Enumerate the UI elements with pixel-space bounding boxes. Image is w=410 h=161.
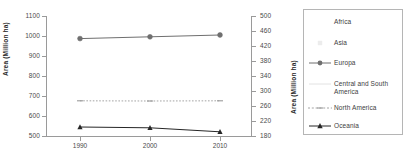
y-tick-label-left: 900 (0, 52, 46, 59)
y-tick-label-right: 380 (252, 57, 300, 64)
legend-marker-icon (304, 16, 334, 28)
series-europa (78, 33, 223, 41)
y-tick-label-left: 500 (0, 132, 46, 139)
legend-marker-icon (304, 120, 334, 132)
series-layer (46, 16, 252, 137)
chart-figure: Area (Million ha) Area (Million ha) 5006… (0, 0, 410, 161)
x-tick (220, 137, 221, 141)
x-tick (80, 137, 81, 141)
legend-item[interactable]: Africa (304, 16, 402, 28)
y-tick-label-right: 220 (252, 117, 300, 124)
y-tick-label-right: 260 (252, 102, 300, 109)
y-tick-label-right: 500 (252, 12, 300, 19)
y-axis-left-title: Area (Million ha) (2, 22, 9, 76)
legend-item[interactable]: Asia (304, 37, 402, 49)
legend-marker-icon (304, 78, 334, 90)
legend-label: Asia (334, 37, 347, 47)
y-tick-label-left: 800 (0, 72, 46, 79)
legend-label: North America (334, 102, 376, 112)
x-tick-label: 2000 (130, 142, 170, 149)
y-tick-label-left: 1000 (0, 32, 46, 39)
y-tick-label-left: 600 (0, 112, 46, 119)
y-tick-label-right: 340 (252, 72, 300, 79)
x-tick-label: 2010 (200, 142, 240, 149)
legend-item[interactable]: Europa (304, 57, 402, 69)
legend-item[interactable]: Oceania (304, 120, 402, 132)
legend-marker-icon (304, 37, 334, 49)
y-tick-label-right: 300 (252, 87, 300, 94)
legend-label: Oceania (334, 120, 359, 130)
legend-label: Europa (334, 57, 356, 67)
y-tick-label-right: 460 (252, 27, 300, 34)
x-tick-label: 1990 (60, 142, 100, 149)
legend-label: Central and South America (334, 78, 388, 95)
legend-label: Africa (334, 16, 351, 26)
x-tick (150, 137, 151, 141)
legend-marker-icon (304, 57, 334, 69)
legend: AfricaAsiaEuropaCentral and South Americ… (303, 9, 403, 135)
legend-item[interactable]: North America (304, 102, 402, 114)
y-tick-label-right: 420 (252, 42, 300, 49)
y-tick-label-left: 700 (0, 92, 46, 99)
y-tick-label-right: 180 (252, 132, 300, 139)
series-oceania (77, 124, 222, 134)
legend-marker-icon (304, 102, 334, 114)
y-tick-label-left: 1100 (0, 12, 46, 19)
plot-area: 50060070080090010001100 1802202603003403… (46, 16, 252, 136)
legend-item[interactable]: Central and South America (304, 78, 402, 90)
